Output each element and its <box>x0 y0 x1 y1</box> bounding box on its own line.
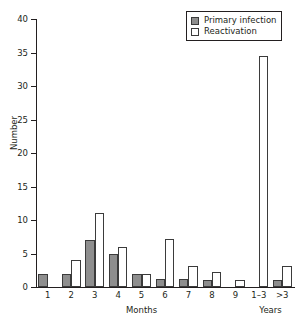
bar-group-7 <box>179 19 198 287</box>
bar-reactivation-7 <box>188 266 197 287</box>
y-tick-label-30: 30 <box>17 82 28 91</box>
chart-legend: Primary infection Reactivation <box>186 11 282 41</box>
bar-group->3 <box>273 19 292 287</box>
y-tick-0 <box>31 287 36 288</box>
y-tick-label-35: 35 <box>17 49 28 58</box>
bar-reactivation-8 <box>212 272 221 287</box>
bar-group-4 <box>109 19 128 287</box>
bar-reactivation-4 <box>118 247 127 287</box>
x-tick-label-3: 3 <box>83 291 106 300</box>
bar-reactivation-2 <box>71 260 80 287</box>
y-tick-label-0: 0 <box>23 283 28 292</box>
x-tick-label->3: >3 <box>271 291 294 300</box>
bar-group-8 <box>203 19 222 287</box>
bar-group-1–3 <box>249 19 268 287</box>
bar-reactivation-5 <box>142 274 151 287</box>
bar-reactivation-1–3 <box>259 56 268 287</box>
bar-primary-infection-3 <box>85 240 94 287</box>
x-tick-label-1–3: 1–3 <box>247 291 270 300</box>
bar-primary-infection->3 <box>273 280 282 287</box>
x-tick-label-4: 4 <box>106 291 129 300</box>
bar-group-5 <box>132 19 151 287</box>
x-tick-label-5: 5 <box>130 291 153 300</box>
bar-primary-infection-5 <box>132 274 141 287</box>
bar-group-1 <box>38 19 57 287</box>
y-tick-label-15: 15 <box>17 183 28 192</box>
bar-chart-figure: 4035302520151050 Number 1234567891–3>3 M… <box>0 0 301 325</box>
bar-primary-infection-1 <box>38 274 47 287</box>
x-tick-label-1: 1 <box>36 291 59 300</box>
x-tick-label-9: 9 <box>224 291 247 300</box>
bar-primary-infection-4 <box>109 254 118 288</box>
bar-primary-infection-8 <box>203 280 212 287</box>
bar-group-3 <box>85 19 104 287</box>
legend-label-reactivation: Reactivation <box>204 27 257 36</box>
bar-primary-infection-6 <box>156 279 165 287</box>
y-tick-label-10: 10 <box>17 216 28 225</box>
bar-primary-infection-2 <box>62 274 71 287</box>
x-tick-label-7: 7 <box>177 291 200 300</box>
y-tick-label-40: 40 <box>17 15 28 24</box>
x-tick-label-6: 6 <box>153 291 176 300</box>
bar-reactivation->3 <box>282 266 291 287</box>
x-group-label-months: Months <box>36 305 247 315</box>
legend-swatch-primary-infection <box>191 17 199 25</box>
bar-group-6 <box>156 19 175 287</box>
legend-swatch-reactivation <box>191 28 199 36</box>
bar-group-9 <box>226 19 245 287</box>
bar-reactivation-3 <box>95 213 104 287</box>
plot-area <box>36 19 294 287</box>
legend-item-reactivation: Reactivation <box>191 26 276 37</box>
bar-group-2 <box>62 19 81 287</box>
x-group-label-years: Years <box>247 305 294 315</box>
legend-label-primary-infection: Primary infection <box>204 16 276 25</box>
bar-reactivation-9 <box>235 280 244 287</box>
y-tick-label-5: 5 <box>23 250 28 259</box>
bar-reactivation-6 <box>165 239 174 287</box>
x-tick-label-8: 8 <box>200 291 223 300</box>
x-tick-label-2: 2 <box>59 291 82 300</box>
bar-primary-infection-7 <box>179 279 188 287</box>
y-axis-title: Number <box>9 103 19 163</box>
legend-item-primary-infection: Primary infection <box>191 15 276 26</box>
x-axis-line <box>36 287 295 288</box>
